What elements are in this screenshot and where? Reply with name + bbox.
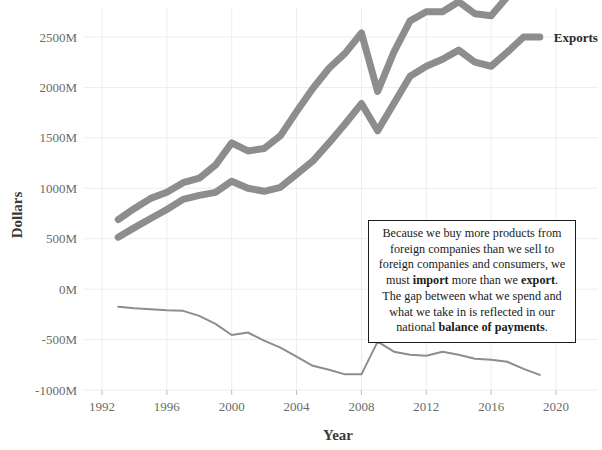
y-tick-label: -500M [42, 332, 78, 347]
x-tick-label: 1996 [154, 399, 181, 414]
y-tick-label: -1000M [35, 383, 77, 398]
y-axis-title: Dollars [9, 192, 25, 239]
annotation-emphasis: balance of payments [438, 320, 544, 334]
y-tick-label: 1500M [39, 130, 77, 145]
annotation-text: . [545, 320, 548, 334]
y-tick-label: 2500M [39, 30, 77, 45]
x-tick-label: 2004 [284, 399, 311, 414]
annotation-emphasis: import [413, 273, 449, 287]
annotation-emphasis: export [521, 273, 555, 287]
tickmarks-group [102, 390, 556, 395]
x-tick-label: 2020 [543, 399, 569, 414]
x-tick-label: 1992 [89, 399, 115, 414]
series-label-exports: Exports [554, 30, 598, 45]
annotation-textbox: Because we buy more products from foreig… [368, 220, 576, 343]
chart-container: 2500M2000M1500M1000M500M0M-500M-1000M 19… [0, 0, 602, 450]
y-tick-label: 0M [59, 282, 78, 297]
x-tick-label: 2012 [413, 399, 439, 414]
x-axis-title: Year [323, 427, 353, 443]
y-tick-label: 2000M [39, 80, 77, 95]
y-tick-labels-group: 2500M2000M1500M1000M500M0M-500M-1000M [35, 30, 77, 398]
x-tick-label: 2016 [478, 399, 505, 414]
series-line-imports [118, 0, 540, 220]
annotation-text: more than we [449, 273, 521, 287]
y-tick-label: 500M [46, 231, 78, 246]
x-tick-label: 2008 [348, 399, 374, 414]
x-tick-label: 2000 [219, 399, 245, 414]
y-tick-label: 1000M [39, 181, 77, 196]
x-tick-labels-group: 19921996200020042008201220162020 [89, 399, 569, 414]
